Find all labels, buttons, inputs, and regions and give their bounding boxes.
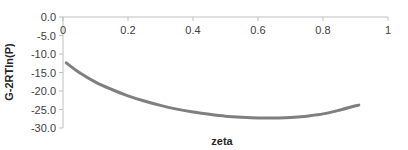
x-tick-label: 0.2 (120, 24, 135, 36)
y-axis: 0.0-5.0-10.0-15.0-20.0-25.0-30.0 (31, 11, 63, 134)
x-tick-label: 1 (385, 24, 391, 36)
x-tick-label: 0.8 (315, 24, 330, 36)
y-axis-title: G-2RTln(P) (3, 43, 15, 101)
y-tick-label: -5.0 (37, 30, 56, 42)
y-tick-label: -15.0 (31, 67, 56, 79)
x-axis: 00.20.40.60.81 (60, 17, 391, 36)
y-tick-label: -30.0 (31, 122, 56, 134)
y-tick-label: 0.0 (41, 11, 56, 23)
x-tick-label: 0.6 (250, 24, 265, 36)
chart: 0.0-5.0-10.0-15.0-20.0-25.0-30.0 00.20.4… (0, 0, 408, 150)
y-tick-label: -10.0 (31, 48, 56, 60)
y-tick-label: -25.0 (31, 104, 56, 116)
x-axis-title: zeta (211, 135, 233, 147)
data-series (66, 63, 359, 118)
series-line (66, 63, 359, 118)
x-tick-label: 0.4 (185, 24, 200, 36)
y-tick-label: -20.0 (31, 85, 56, 97)
x-tick-label: 0 (60, 24, 66, 36)
